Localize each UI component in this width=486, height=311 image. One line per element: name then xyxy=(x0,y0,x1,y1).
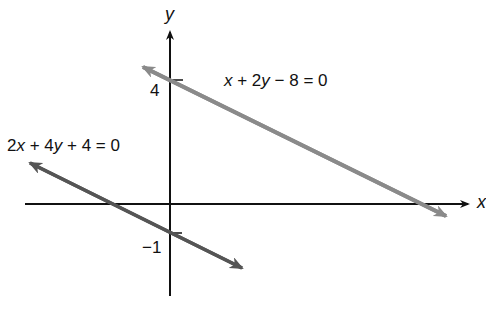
eq-upper-part4: − 8 = 0 xyxy=(270,71,328,90)
line-2x-plus-4y-plus-4 xyxy=(30,163,242,268)
eq-upper-y: y xyxy=(261,71,270,90)
eq-lower-x: x xyxy=(16,136,25,155)
equation-label-upper: x + 2y − 8 = 0 xyxy=(224,71,328,91)
x-axis-label: x xyxy=(477,192,486,213)
eq-upper-part2: + 2 xyxy=(233,71,262,90)
eq-lower-part3: + 4 xyxy=(25,136,54,155)
y-axis-label: y xyxy=(165,4,174,25)
equation-label-lower: 2x + 4y + 4 = 0 xyxy=(7,136,120,156)
eq-upper-x: x xyxy=(224,71,233,90)
tick-label-neg1: −1 xyxy=(142,238,161,258)
tick-label-4: 4 xyxy=(150,81,159,101)
eq-lower-part5: + 4 = 0 xyxy=(62,136,120,155)
